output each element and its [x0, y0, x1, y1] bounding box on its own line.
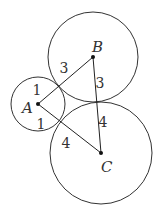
length-label: 3 [96, 75, 105, 91]
point-label-c: C [101, 158, 113, 176]
center-point-a [36, 102, 40, 106]
length-label: 1 [37, 116, 46, 132]
segment-bc [93, 57, 101, 153]
center-point-c [99, 151, 103, 155]
length-label: 4 [62, 135, 71, 151]
center-points-group: ABC [20, 38, 113, 176]
tangent-circles-diagram: ABC 133144 [0, 0, 163, 214]
length-label: 4 [99, 114, 108, 130]
length-label: 3 [60, 60, 69, 76]
length-label: 1 [33, 82, 42, 98]
point-label-b: B [91, 38, 103, 56]
length-labels-group: 133144 [33, 60, 108, 151]
point-label-a: A [20, 99, 33, 117]
